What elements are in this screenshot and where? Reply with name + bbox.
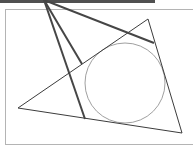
line-to-side-ab bbox=[44, 0, 154, 43]
incircle bbox=[85, 43, 165, 123]
triangle bbox=[18, 19, 182, 133]
top-bar bbox=[0, 0, 155, 3]
geometry-figure bbox=[0, 0, 193, 147]
